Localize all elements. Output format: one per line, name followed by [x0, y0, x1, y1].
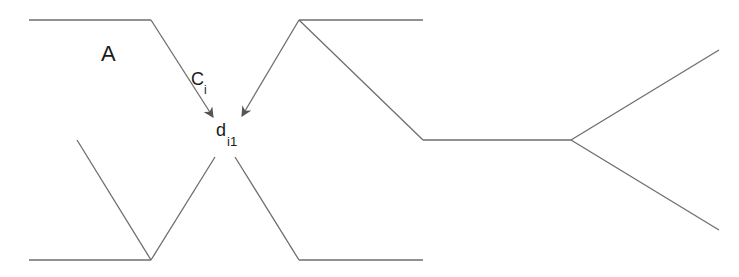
region-label-a: A — [101, 41, 116, 66]
fork-upper-branch — [571, 50, 719, 140]
diagonal-to-stem — [299, 20, 423, 140]
fork-lower-branch — [571, 140, 719, 230]
bottom-left-diagonal — [77, 140, 151, 260]
diagram-canvas: A C i d i1 — [0, 0, 739, 277]
bottom-left-rise — [151, 157, 215, 260]
bottom-right-fall — [235, 157, 299, 260]
arrow-right-to-d — [242, 20, 299, 116]
arrow-label-c: C — [191, 69, 204, 89]
arrow-label-c-sub: i — [204, 83, 207, 97]
point-label-d: d — [216, 120, 226, 140]
point-label-d-sub: i1 — [227, 134, 237, 149]
